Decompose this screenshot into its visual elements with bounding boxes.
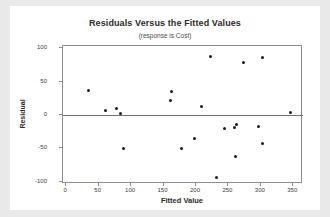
x-tick-label: 350 [277,187,307,193]
y-tick-label: 100 [25,44,47,50]
scatter-point [289,111,292,114]
x-tick-mark [260,183,261,186]
scatter-point [200,105,203,108]
scatter-point [115,107,118,110]
x-tick-label: 100 [115,187,145,193]
y-tick-label: 0 [25,111,47,117]
scatter-point [235,123,238,126]
x-tick-label: 300 [245,187,275,193]
y-tick-label: -50 [25,144,47,150]
x-axis-title: Fitted Value [62,196,302,205]
chart-screenshot: Residuals Versus the Fitted Values (resp… [0,0,330,217]
x-tick-mark [98,183,99,186]
scatter-point [169,99,172,102]
zero-reference-line [63,115,303,116]
plot-area [62,45,302,183]
x-tick-mark [65,183,66,186]
x-tick-mark [292,183,293,186]
x-tick-mark [195,183,196,186]
y-tick-label: 50 [25,78,47,84]
scatter-point [215,176,218,179]
x-tick-mark [227,183,228,186]
scatter-point [261,142,264,145]
scatter-point [119,112,122,115]
x-tick-mark [163,183,164,186]
scatter-point [193,137,196,140]
x-tick-label: 250 [212,187,242,193]
scatter-point [209,55,212,58]
scatter-point [180,147,183,150]
scatter-point [170,90,173,93]
chart-subtitle: (response is Cost) [10,32,320,39]
scatter-point [233,126,236,129]
scatter-point [234,155,237,158]
scatter-point [261,56,264,59]
x-tick-label: 200 [180,187,210,193]
x-tick-label: 150 [148,187,178,193]
scatter-point [104,109,107,112]
x-tick-label: 0 [50,187,80,193]
x-tick-label: 50 [83,187,113,193]
y-tick-label: -100 [25,178,47,184]
chart-card: Residuals Versus the Fitted Values (resp… [10,6,320,210]
scatter-point [122,147,125,150]
scatter-point [242,61,245,64]
scatter-point [257,125,260,128]
chart-title: Residuals Versus the Fitted Values [10,18,320,28]
x-tick-mark [130,183,131,186]
scatter-point [87,89,90,92]
scatter-point [223,127,226,130]
